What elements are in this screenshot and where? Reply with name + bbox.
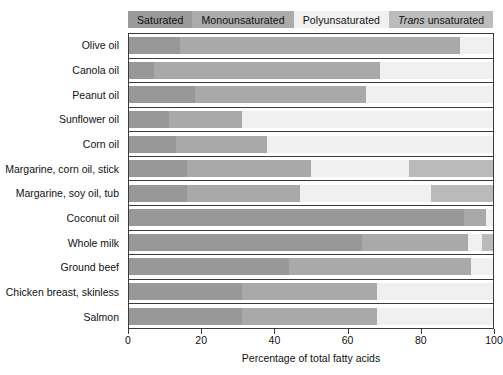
- bar-segment-trans: [409, 160, 493, 177]
- bar-segment-mono: [289, 258, 471, 275]
- bar-segment-sat: [129, 160, 187, 177]
- stacked-bar: [129, 258, 493, 275]
- x-axis-tick-label: 80: [415, 334, 427, 346]
- bar-segment-trans: [482, 234, 493, 251]
- bar-segment-poly: [380, 62, 493, 79]
- x-axis-tick-label: 0: [125, 334, 131, 346]
- bar-segment-sat: [129, 308, 242, 325]
- bars-container: [129, 34, 493, 328]
- chart-legend: Saturated Monounsaturated Polyunsaturate…: [128, 11, 493, 28]
- legend-item-saturated: Saturated: [128, 11, 192, 28]
- bar-segment-mono: [242, 283, 377, 300]
- bar-segment-mono: [362, 234, 468, 251]
- bar-segment-mono: [242, 308, 377, 325]
- bar-row: [129, 108, 493, 133]
- stacked-bar: [129, 283, 493, 300]
- bar-segment-sat: [129, 234, 362, 251]
- bar-segment-sat: [129, 209, 464, 226]
- bar-row: [129, 231, 493, 256]
- stacked-bar: [129, 234, 493, 251]
- bar-segment-sat: [129, 136, 176, 153]
- bar-segment-mono: [180, 37, 460, 54]
- x-axis-tick-label: 40: [269, 334, 281, 346]
- stacked-bar: [129, 111, 493, 128]
- y-axis-label: Chicken breast, skinless: [0, 280, 124, 305]
- bar-segment-sat: [129, 185, 187, 202]
- y-axis-label: Peanut oil: [0, 82, 124, 107]
- bar-row: [129, 304, 493, 328]
- y-axis-label: Corn oil: [0, 132, 124, 157]
- bar-segment-mono: [176, 136, 267, 153]
- x-axis-tick-label: 60: [342, 334, 354, 346]
- bar-row: [129, 59, 493, 84]
- bar-segment-poly: [311, 160, 409, 177]
- bar-segment-poly: [377, 308, 493, 325]
- y-axis-label: Sunflower oil: [0, 107, 124, 132]
- y-axis-label: Coconut oil: [0, 206, 124, 231]
- y-axis-label: Margarine, soy oil, tub: [0, 181, 124, 206]
- stacked-bar: [129, 185, 493, 202]
- bar-segment-mono: [464, 209, 486, 226]
- bar-segment-poly: [468, 234, 483, 251]
- x-axis-title: Percentage of total fatty acids: [128, 352, 494, 364]
- bar-segment-poly: [486, 209, 493, 226]
- stacked-bar: [129, 308, 493, 325]
- bar-row: [129, 157, 493, 182]
- legend-label-monounsaturated: Monounsaturated: [201, 14, 284, 26]
- y-axis-label: Whole milk: [0, 230, 124, 255]
- bar-row: [129, 132, 493, 157]
- x-axis-tick-label: 20: [195, 334, 207, 346]
- bar-row: [129, 83, 493, 108]
- stacked-bar: [129, 37, 493, 54]
- bar-segment-poly: [377, 283, 493, 300]
- bar-segment-mono: [169, 111, 242, 128]
- plot-area: [128, 33, 494, 329]
- legend-label-trans-emphasis: Trans: [398, 14, 425, 26]
- bar-segment-mono: [154, 62, 380, 79]
- bar-row: [129, 206, 493, 231]
- bar-segment-sat: [129, 283, 242, 300]
- bar-segment-mono: [187, 160, 311, 177]
- y-axis-label: Margarine, corn oil, stick: [0, 156, 124, 181]
- x-axis-tick-labels: 020406080100: [128, 334, 494, 350]
- bar-segment-sat: [129, 86, 195, 103]
- stacked-bar: [129, 160, 493, 177]
- bar-row: [129, 280, 493, 305]
- y-axis-label: Salmon: [0, 304, 124, 329]
- bar-segment-poly: [471, 258, 493, 275]
- bar-segment-poly: [366, 86, 493, 103]
- bar-row: [129, 34, 493, 59]
- bar-segment-mono: [195, 86, 366, 103]
- bar-segment-trans: [431, 185, 493, 202]
- legend-label-trans-unsaturated: Trans unsaturated: [398, 14, 484, 26]
- bar-segment-sat: [129, 62, 154, 79]
- x-axis-tick-label: 100: [485, 334, 503, 346]
- bar-row: [129, 181, 493, 206]
- y-axis-labels: Olive oilCanola oilPeanut oilSunflower o…: [0, 33, 124, 329]
- bar-segment-poly: [460, 37, 493, 54]
- legend-item-monounsaturated: Monounsaturated: [192, 11, 293, 28]
- bar-segment-poly: [242, 111, 493, 128]
- stacked-bar: [129, 62, 493, 79]
- bar-segment-sat: [129, 258, 289, 275]
- bar-segment-mono: [187, 185, 300, 202]
- y-axis-label: Ground beef: [0, 255, 124, 280]
- bar-segment-sat: [129, 111, 169, 128]
- legend-label-polyunsaturated: Polyunsaturated: [303, 14, 380, 26]
- stacked-bar: [129, 136, 493, 153]
- bar-segment-sat: [129, 37, 180, 54]
- stacked-bar: [129, 209, 493, 226]
- stacked-bar: [129, 86, 493, 103]
- bar-row: [129, 255, 493, 280]
- y-axis-label: Olive oil: [0, 33, 124, 58]
- bar-segment-poly: [300, 185, 431, 202]
- legend-item-trans-unsaturated: Trans unsaturated: [389, 11, 493, 28]
- y-axis-label: Canola oil: [0, 58, 124, 83]
- bar-segment-poly: [267, 136, 493, 153]
- legend-label-saturated: Saturated: [137, 14, 183, 26]
- legend-item-polyunsaturated: Polyunsaturated: [294, 11, 389, 28]
